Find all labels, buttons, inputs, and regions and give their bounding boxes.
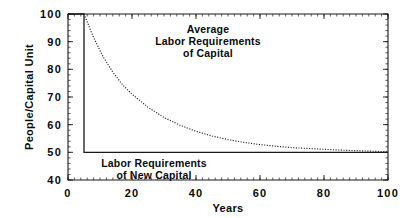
chart-canvas: 020406080100 405060708090100 Years Peopl… xyxy=(0,0,412,218)
tick-label: 80 xyxy=(317,187,332,199)
tick-label: 100 xyxy=(377,187,399,199)
tick-label: 20 xyxy=(125,187,140,199)
tick-label: 40 xyxy=(189,187,204,199)
annotation-new-capital-line-1: Labor Requirements xyxy=(101,157,207,169)
tick-label: 100 xyxy=(40,8,62,20)
tick-label: 80 xyxy=(47,63,62,75)
tick-label: 70 xyxy=(47,91,62,103)
annotation-average-line-2: Labor Requirements xyxy=(155,35,261,47)
annotation-average-line-3: of Capital xyxy=(183,47,233,59)
tick-label: 90 xyxy=(47,36,62,48)
annotation-average-line-1: Average xyxy=(187,23,229,35)
chart-figure: 020406080100 405060708090100 Years Peopl… xyxy=(0,0,412,218)
x-axis-title: Years xyxy=(213,202,244,214)
y-axis-title: People/Capital Unit xyxy=(23,44,35,150)
tick-label: 50 xyxy=(47,146,62,158)
tick-label: 40 xyxy=(47,174,62,186)
tick-label: 60 xyxy=(253,187,268,199)
tick-label: 60 xyxy=(47,119,62,131)
tick-label: 0 xyxy=(64,187,71,199)
annotation-new-capital: Labor Requirements of New Capital xyxy=(101,157,207,181)
annotation-new-capital-line-2: of New Capital xyxy=(116,169,191,181)
